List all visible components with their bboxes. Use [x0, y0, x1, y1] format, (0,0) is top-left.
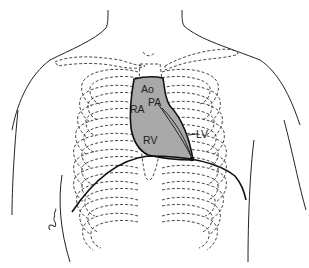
rib-right: [162, 197, 220, 234]
sternal-notch: [143, 52, 155, 56]
label-lv: LV: [196, 128, 208, 140]
rib-right: [162, 188, 215, 216]
right-arm-inner: [248, 140, 254, 262]
rib-left: [82, 140, 138, 168]
rib-left: [74, 133, 138, 170]
rib-left: [74, 149, 138, 186]
right-arm-outer: [284, 120, 306, 210]
rib-left: [82, 172, 138, 200]
label-ra: RA: [130, 103, 145, 115]
clavicle-right: [165, 49, 238, 70]
label-rv: RV: [143, 134, 157, 146]
rib-right: [162, 165, 226, 202]
rib-left: [88, 204, 138, 232]
rib-left: [85, 188, 138, 216]
rib-right: [162, 181, 223, 218]
neck-right: [182, 10, 300, 125]
ribs-left: [74, 69, 138, 250]
rib-right: [162, 172, 218, 200]
rib-right: [162, 220, 209, 248]
artist-signature: [48, 209, 61, 232]
neck-left: [12, 10, 108, 130]
rib-right: [162, 76, 210, 104]
left-arm-inner: [60, 175, 70, 262]
rib-left: [77, 181, 138, 218]
clavicle-left: [55, 57, 145, 68]
chest-diagram: Ao PA RA RV LV: [0, 0, 309, 268]
rib-left: [84, 124, 138, 152]
diaphragm: [72, 156, 246, 212]
label-pa: PA: [148, 96, 161, 108]
heart-silhouette: [130, 77, 193, 160]
clavicles: [55, 49, 238, 70]
rib-right: [162, 204, 212, 232]
label-ao: Ao: [141, 83, 154, 95]
rib-left: [80, 197, 138, 234]
rib-left: [91, 220, 138, 248]
